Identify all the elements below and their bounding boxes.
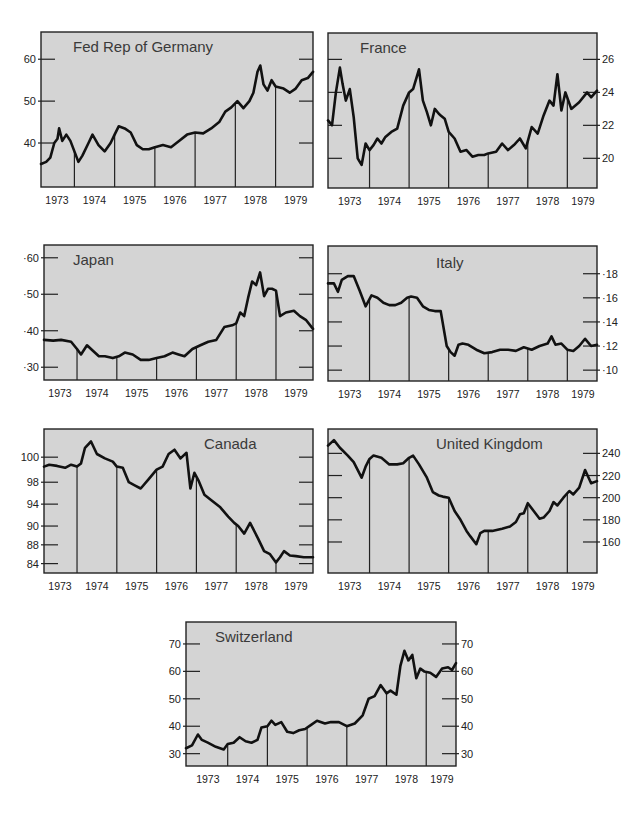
y-tick-label: 60 [461,665,473,677]
y-tick-label: 40 [461,720,473,732]
x-year-label: 1975 [276,773,300,785]
x-year-label: 1973 [196,773,220,785]
x-year-label: 1979 [430,773,454,785]
y-tick-label: 50 [169,693,181,705]
y-tick-label: 50 [461,693,473,705]
x-year-label: 1976 [315,773,339,785]
y-tick-label: 30 [169,748,181,760]
y-tick-label: 70 [169,638,181,650]
chart-title: Switzerland [215,628,293,645]
y-tick-label: 30 [461,748,473,760]
x-year-label: 1977 [355,773,379,785]
x-year-label: 1978 [395,773,419,785]
y-tick-label: 60 [169,665,181,677]
chart-svg: 30304040505060607070Switzerland197319741… [0,0,643,814]
y-tick-label: 70 [461,638,473,650]
x-year-label: 1974 [236,773,260,785]
y-tick-label: 40 [169,720,181,732]
